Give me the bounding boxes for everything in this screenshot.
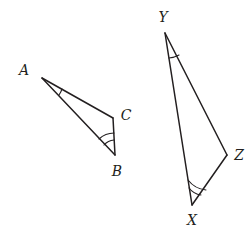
vertex-label-z: Z xyxy=(233,147,244,163)
geometry-canvas: A C B Y Z X xyxy=(0,0,251,240)
segment-cb xyxy=(113,118,115,155)
angle-arc-b-1 xyxy=(99,133,114,139)
segment-ac xyxy=(42,78,113,118)
angle-arc-a-1 xyxy=(59,89,62,95)
angle-arc-b-2 xyxy=(104,140,114,145)
triangle-yxz: Y Z X xyxy=(158,9,244,228)
vertex-label-b: B xyxy=(111,163,122,179)
geometry-figure: A C B Y Z X xyxy=(0,0,251,240)
angle-mark-b xyxy=(99,133,114,145)
vertex-label-a: A xyxy=(17,62,29,78)
vertex-label-c: C xyxy=(121,107,132,123)
vertex-label-x: X xyxy=(186,212,198,228)
segment-zx xyxy=(192,155,227,205)
triangle-abc: A C B xyxy=(17,62,132,179)
vertex-label-y: Y xyxy=(158,9,169,25)
angle-mark-a xyxy=(59,89,62,95)
segment-ba xyxy=(42,78,115,155)
